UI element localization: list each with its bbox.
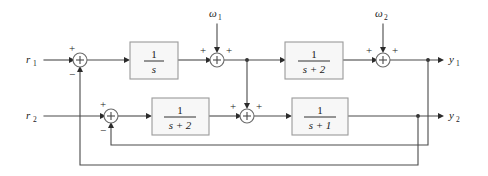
label-omega2: ω 2: [375, 7, 388, 22]
arrowhead-sum3-to-y1: [438, 57, 444, 63]
label-omega1: ω 1: [209, 7, 222, 22]
block-1-over-s-denominator: s: [152, 63, 156, 75]
label-y1-symbol: y: [448, 53, 454, 65]
block-1-over-s-plus-2-bottom[interactable]: 1 s + 2: [152, 98, 209, 135]
label-r2-symbol: r: [26, 109, 31, 121]
arrowhead-branch-to-sum5: [244, 103, 250, 109]
block-1-over-s-plus-2-bottom-numerator: 1: [177, 104, 183, 116]
summing-junctions-group: + − + + + + + −: [69, 42, 398, 136]
block-1-over-s-plus-1-denominator: s + 1: [309, 119, 332, 131]
summing-junction-1-sign-plus: +: [69, 42, 75, 54]
arrowhead-sum5-to-blocks1: [286, 113, 292, 119]
label-y2: y 2: [448, 109, 460, 124]
summing-junction-5-sign-left: +: [230, 100, 236, 112]
block-1-over-s-plus-1-numerator: 1: [317, 104, 323, 116]
label-r1: r 1: [26, 53, 37, 68]
arrowhead-w2-to-sum3: [380, 47, 386, 53]
summing-junction-1-sign-minus: −: [69, 68, 75, 80]
summing-junction-3-sign-left: +: [366, 44, 372, 56]
label-r2-subscript: 2: [33, 115, 37, 124]
label-omega1-subscript: 1: [218, 13, 222, 22]
wires-group: [44, 24, 444, 165]
label-y2-subscript: 2: [456, 115, 460, 124]
label-r2: r 2: [26, 109, 37, 124]
label-y2-symbol: y: [448, 109, 454, 121]
block-1-over-s-plus-2-top-denominator: s + 2: [303, 63, 326, 75]
block-1-over-s[interactable]: 1 s: [130, 42, 178, 79]
arrowhead-blocks1-to-y2: [438, 113, 444, 119]
label-omega2-symbol: ω: [375, 7, 383, 19]
block-1-over-s-numerator: 1: [151, 48, 157, 60]
block-diagram-canvas: 1 s 1 s + 2 1 s + 2 1: [0, 0, 488, 176]
block-1-over-s-plus-2-bottom-denominator: s + 2: [169, 119, 192, 131]
block-1-over-s-plus-1[interactable]: 1 s + 1: [292, 98, 348, 135]
summing-junction-3-sign-right: +: [392, 44, 398, 56]
block-1-over-s-plus-2-top-numerator: 1: [311, 48, 317, 60]
label-omega2-subscript: 2: [384, 13, 388, 22]
arrowhead-sum4-to-blockbot2: [146, 113, 152, 119]
arrowhead-w1-to-sum2: [214, 47, 220, 53]
label-r1-symbol: r: [26, 53, 31, 65]
label-r1-subscript: 1: [33, 59, 37, 68]
label-omega1-symbol: ω: [209, 7, 217, 19]
signal-labels-group: r 1 r 2 ω 1 ω 2 y 1: [26, 7, 460, 124]
summing-junction-2-sign-right: +: [226, 44, 232, 56]
summing-junction-5-sign-right: +: [256, 100, 262, 112]
summing-junction-2-sign-left: +: [200, 44, 206, 56]
blocks-group: 1 s 1 s + 2 1 s + 2 1: [130, 42, 348, 135]
label-y1: y 1: [448, 53, 460, 68]
summing-junction-4-sign-minus: −: [100, 124, 106, 136]
arrowhead-sum1-to-block1: [124, 57, 130, 63]
label-y1-subscript: 1: [456, 59, 460, 68]
block-diagram-svg: 1 s 1 s + 2 1 s + 2 1: [0, 0, 488, 176]
summing-junction-4-sign-plus: +: [100, 98, 106, 110]
block-1-over-s-plus-2-top[interactable]: 1 s + 2: [285, 42, 343, 79]
